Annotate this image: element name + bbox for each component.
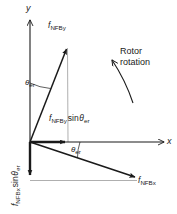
label-f-nfbx-sin-subscript: NFBx [14,188,21,203]
label-theta-er-upper: θer [25,79,35,87]
label-f-nfbx-sin-operator: sin [10,176,20,187]
label-f-nfbx: fNFBx [138,176,156,185]
label-f-nfbx-sin-angle-subscript: er [14,166,21,172]
label-f-nfbx-subscript: NFBx [140,179,155,186]
label-f-nfby-sin-subscript: NFBy [51,117,66,124]
rotor-rotation-note-line2: rotation [120,57,150,68]
y-axis-label: y [26,4,31,13]
label-f-nfby-sin-theta: fNFBy sin θer [49,114,90,123]
x-axis-label: x [167,137,172,146]
label-f-nfbx-sin-angle: θ [10,171,20,176]
rotor-rotation-note: Rotor rotation [120,46,150,68]
label-f-nfby-sin-operator: sin [68,113,79,123]
vector-f-nfby [30,49,67,142]
label-f-nfbx-sin-theta: fNFBx sin θer [11,166,20,207]
label-f-nfby-subscript: NFBy [50,24,65,31]
label-f-nfby-sin-angle-subscript: er [84,117,90,124]
vector-f-nfbx [30,142,135,177]
label-theta-er-lower: θer [71,146,81,154]
label-theta-er-upper-subscript: er [29,81,35,88]
vector-diagram: y x fNFBy fNFBy sin θer fNFBx fNFBx sin … [0,0,177,214]
projection-line-vertical [68,48,69,142]
label-f-nfby: fNFBy [48,21,66,30]
rotor-rotation-note-line1: Rotor [120,46,150,57]
label-theta-er-lower-subscript: er [75,148,81,155]
